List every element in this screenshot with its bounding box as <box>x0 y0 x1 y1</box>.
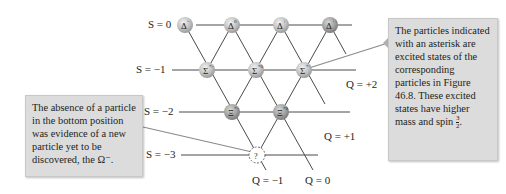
particle-delta-zero: Δ 0 <box>224 17 240 33</box>
svg-text:?: ? <box>254 152 258 161</box>
row-label-s-3: S = −3 <box>146 148 176 160</box>
right-callout-end: . <box>459 116 462 127</box>
svg-text:*−: *− <box>234 106 240 111</box>
charge-label-q-plus2: Q = +2 <box>346 78 377 90</box>
particle-delta-plusplus: Δ ++ <box>322 17 338 33</box>
charge-label-q-plus1: Q = +1 <box>324 130 355 142</box>
particle-sigma-star-plus: Σ *+ <box>296 62 312 78</box>
svg-text:*+: *+ <box>306 64 312 69</box>
left-callout-text: The absence of a particle in the bottom … <box>32 102 136 165</box>
row-label-s-1: S = −1 <box>136 63 166 75</box>
lattice-diagonals <box>185 25 346 170</box>
svg-text:*0: *0 <box>258 64 264 69</box>
charge-label-q-0: Q = 0 <box>305 174 330 186</box>
q-0-line <box>232 25 313 170</box>
svg-text:Σ: Σ <box>300 66 305 76</box>
particle-xi-star-minus: Ξ *− <box>224 104 240 120</box>
row-label-s0: S = 0 <box>148 18 171 30</box>
svg-text:Σ: Σ <box>252 66 257 76</box>
particle-delta-plus: Δ + <box>273 17 289 33</box>
right-callout-box: The particles indicated with an asterisk… <box>388 18 498 161</box>
particle-unknown-omega: ? <box>249 147 265 163</box>
svg-text:++: ++ <box>332 19 338 24</box>
svg-text:−: − <box>187 19 190 24</box>
particle-sigma-star-zero: Σ *0 <box>248 62 264 78</box>
right-leader <box>309 43 388 68</box>
svg-text:Σ: Σ <box>203 66 208 76</box>
charge-label-q-minus1: Q = −1 <box>252 174 283 186</box>
svg-text:*0: *0 <box>283 106 289 111</box>
particle-xi-star-zero: Ξ *0 <box>273 104 289 120</box>
particle-nodes: Δ − Δ 0 Δ + Δ ++ Σ *− Σ *0 <box>177 17 338 163</box>
svg-text:*−: *− <box>209 64 215 69</box>
particle-sigma-star-minus: Σ *− <box>199 62 215 78</box>
right-callout-text: The particles indicated with an asterisk… <box>395 25 490 127</box>
svg-text:+: + <box>283 19 286 24</box>
row-label-s-2: S = −2 <box>144 105 174 117</box>
left-callout-box: The absence of a particle in the bottom … <box>25 95 143 177</box>
particle-delta-minus: Δ − <box>177 17 193 33</box>
